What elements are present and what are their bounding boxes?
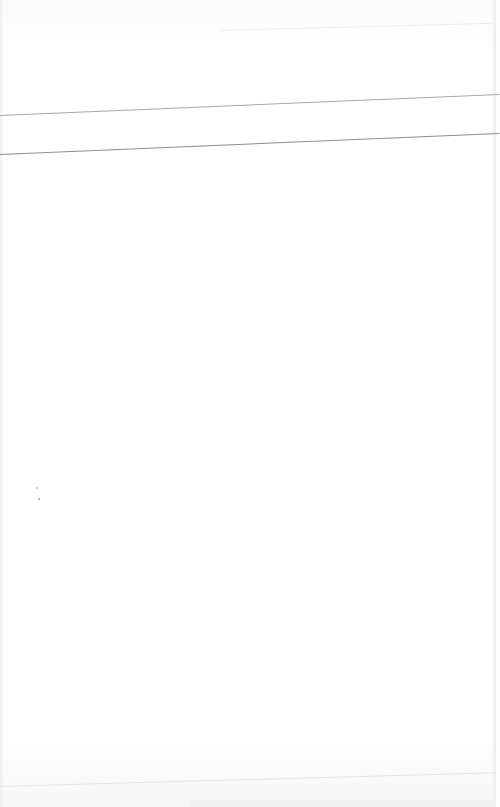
paper-right-edge-shadow xyxy=(491,0,496,807)
faint-bottom-line xyxy=(0,772,496,787)
speck-mark xyxy=(38,498,40,500)
speck-mark xyxy=(36,487,38,489)
faint-top-line xyxy=(220,23,496,31)
paper-left-edge-shadow xyxy=(0,0,4,807)
bottom-shadow xyxy=(190,800,496,807)
ruled-line-2 xyxy=(0,133,500,155)
ruled-line-1 xyxy=(0,94,500,116)
